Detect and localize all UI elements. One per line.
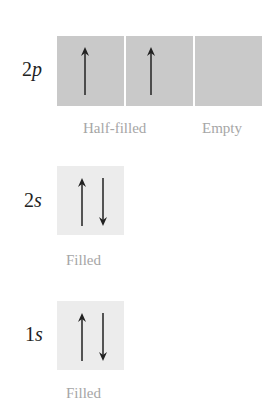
spin-up-arrow-icon bbox=[77, 313, 87, 361]
subshell-letter: s bbox=[34, 189, 42, 211]
orbital-label-2p: 2p bbox=[22, 58, 42, 81]
orbital-label-2s: 2s bbox=[24, 189, 42, 212]
caption-empty: Empty bbox=[202, 120, 242, 137]
spin-up-arrow-icon bbox=[77, 178, 87, 226]
orbital-box-1s bbox=[57, 301, 124, 370]
caption-half-filled: Half-filled bbox=[83, 120, 146, 137]
orbital-label-1s: 1s bbox=[25, 323, 43, 346]
spin-up-arrow-icon bbox=[80, 47, 90, 95]
subshell-letter: s bbox=[35, 323, 43, 345]
orbital-box-2s bbox=[57, 166, 124, 235]
shell-number: 2 bbox=[22, 58, 32, 80]
spin-down-arrow-icon bbox=[98, 178, 108, 226]
caption-filled-1s: Filled bbox=[66, 385, 101, 401]
shell-number: 2 bbox=[24, 189, 34, 211]
spin-up-arrow-icon bbox=[146, 47, 156, 95]
shell-number: 1 bbox=[25, 323, 35, 345]
orbital-box-2p-3 bbox=[195, 36, 262, 106]
orbital-box-2p-1 bbox=[57, 36, 124, 106]
subshell-letter: p bbox=[32, 58, 42, 80]
orbital-box-2p-2 bbox=[126, 36, 193, 106]
caption-filled-2s: Filled bbox=[66, 252, 101, 269]
spin-down-arrow-icon bbox=[98, 313, 108, 361]
